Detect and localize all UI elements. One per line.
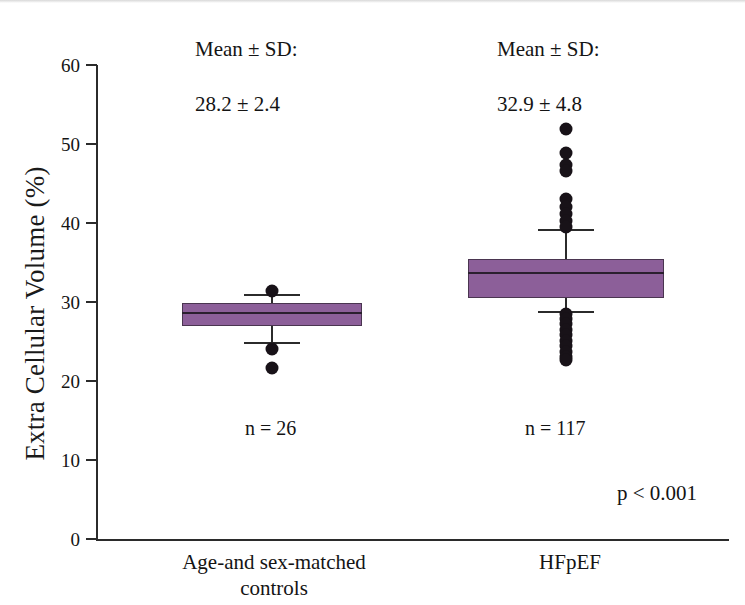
y-tick-label: 0 xyxy=(36,530,80,549)
median-line xyxy=(182,312,362,314)
y-tick-mark xyxy=(86,538,97,540)
outlier-point xyxy=(266,284,279,297)
y-tick-label: 30 xyxy=(36,293,80,312)
median-line xyxy=(468,272,664,274)
outlier-point xyxy=(560,164,573,177)
y-tick-mark xyxy=(86,64,97,66)
x-axis-line xyxy=(96,539,729,541)
mean-sd-annotation-hfpef: Mean ± SD: 32.9 ± 4.8 xyxy=(497,8,600,147)
y-tick-mark xyxy=(86,143,97,145)
y-tick-label: 20 xyxy=(36,372,80,391)
y-tick-label: 60 xyxy=(36,56,80,75)
y-tick-mark xyxy=(86,301,97,303)
box-iqr xyxy=(468,259,664,299)
y-tick-label: 10 xyxy=(36,451,80,470)
y-tick-mark xyxy=(86,222,97,224)
outlier-point xyxy=(560,354,573,367)
p-value-label: p < 0.001 xyxy=(617,481,697,506)
whisker-upper xyxy=(565,229,567,258)
x-axis-category-label-controls: Age-and sex-matched controls xyxy=(152,549,396,602)
mean-sd-header-controls: Mean ± SD: xyxy=(195,36,298,64)
sample-size-label-controls: n = 26 xyxy=(245,417,296,440)
outlier-point xyxy=(266,361,279,374)
outlier-point xyxy=(266,342,279,355)
mean-sd-annotation-controls: Mean ± SD: 28.2 ± 2.4 xyxy=(195,8,298,147)
y-tick-label: 40 xyxy=(36,214,80,233)
y-tick-mark xyxy=(86,380,97,382)
y-tick-mark xyxy=(86,459,97,461)
outlier-point xyxy=(560,220,573,233)
box-iqr xyxy=(182,303,362,326)
y-tick-label: 50 xyxy=(36,135,80,154)
whisker-lower xyxy=(271,326,273,343)
mean-sd-value-controls: 28.2 ± 2.4 xyxy=(195,91,298,119)
x-axis-category-label-hfpef: HFpEF xyxy=(470,549,670,575)
scan-edge-artifact xyxy=(0,0,745,3)
sample-size-label-hfpef: n = 117 xyxy=(525,417,586,440)
mean-sd-value-hfpef: 32.9 ± 4.8 xyxy=(497,91,600,119)
mean-sd-header-hfpef: Mean ± SD: xyxy=(497,36,600,64)
y-axis-line xyxy=(96,65,98,541)
boxplot-figure: Extra Cellular Volume (%) 0102030405060 … xyxy=(0,0,745,605)
